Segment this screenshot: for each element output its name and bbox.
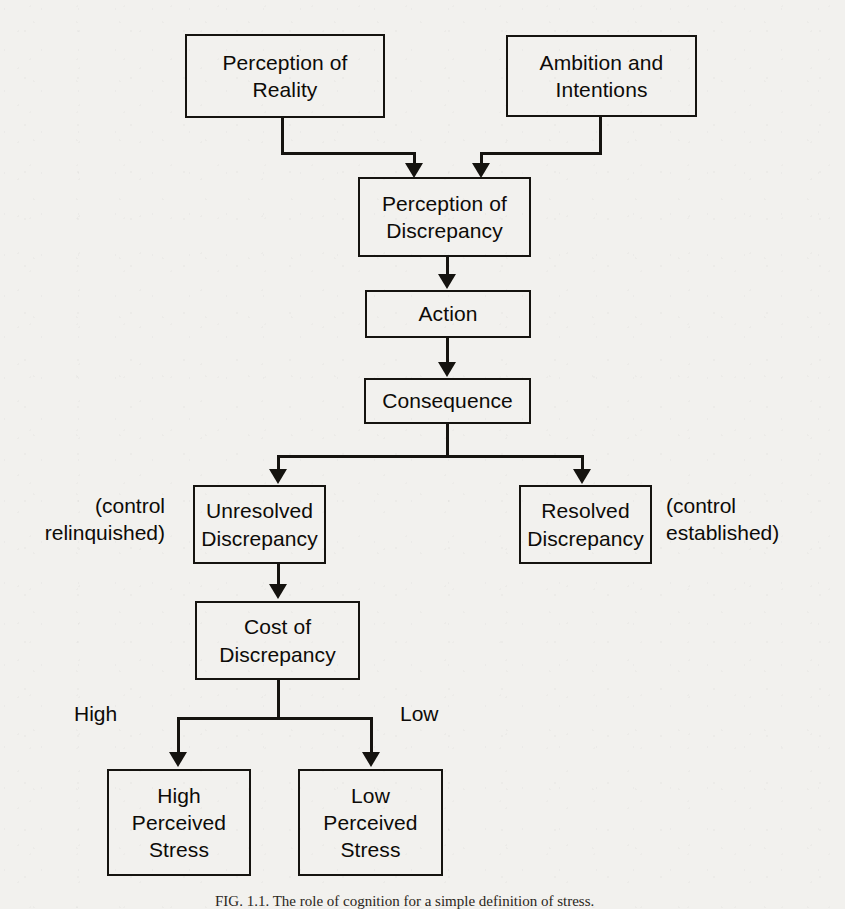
edge-ambition-to-discrepancy-stem	[599, 117, 602, 154]
node-action-label: Action	[413, 300, 484, 327]
edge-split-to-resolved-arrowhead	[573, 469, 591, 484]
node-cost-of-discrepancy: Cost of Discrepancy	[195, 601, 360, 680]
node-unresolved-discrepancy: Unresolved Discrepancy	[193, 485, 326, 564]
edge-unresolved-to-cost-stem	[277, 564, 280, 586]
figure-caption: FIG. 1.1. The role of cognition for a si…	[215, 893, 775, 909]
edge-cost-split-stem	[277, 680, 280, 719]
node-consequence-label: Consequence	[376, 387, 519, 414]
edge-discrepancy-to-action-arrowhead	[438, 274, 456, 289]
edge-action-to-consequence-arrowhead	[438, 362, 456, 377]
node-ambition-and-intentions: Ambition and Intentions	[506, 35, 697, 117]
edge-reality-to-discrepancy-stem	[281, 118, 284, 154]
node-low-perceived-stress: Low Perceived Stress	[298, 769, 443, 876]
edge-unresolved-to-cost-arrowhead	[269, 584, 287, 599]
edge-ambition-to-discrepancy-arrowhead	[472, 163, 490, 178]
edge-reality-to-discrepancy-run	[281, 152, 416, 155]
edge-action-to-consequence-stem	[446, 338, 449, 365]
edge-cost-split-bar	[177, 717, 372, 720]
node-resolved-discrepancy-label: Resolved Discrepancy	[521, 497, 650, 552]
node-high-perceived-stress-label: High Perceived Stress	[126, 782, 232, 864]
edge-consequence-split-bar	[277, 455, 583, 458]
annotation-branch-high: High	[74, 700, 144, 727]
edge-ambition-to-discrepancy-run	[480, 152, 602, 155]
annotation-control-relinquished: (control relinquished)	[0, 492, 165, 547]
edge-split-to-high-stress-arrowhead	[169, 752, 187, 767]
node-resolved-discrepancy: Resolved Discrepancy	[519, 485, 652, 564]
annotation-control-established: (control established)	[666, 492, 845, 547]
node-perception-of-discrepancy-label: Perception of Discrepancy	[376, 190, 513, 245]
edge-split-to-low-stress-arrowhead	[362, 752, 380, 767]
node-action: Action	[365, 290, 531, 338]
node-consequence: Consequence	[364, 378, 531, 424]
node-perception-of-discrepancy: Perception of Discrepancy	[358, 177, 531, 257]
node-ambition-and-intentions-label: Ambition and Intentions	[534, 49, 670, 104]
figure-canvas: Perception of Reality Ambition and Inten…	[0, 0, 845, 909]
node-cost-of-discrepancy-label: Cost of Discrepancy	[213, 613, 342, 668]
edge-split-to-unresolved-arrowhead	[269, 469, 287, 484]
edge-reality-to-discrepancy-arrowhead	[405, 163, 423, 178]
edge-split-to-low-stress-drop	[370, 717, 373, 755]
node-unresolved-discrepancy-label: Unresolved Discrepancy	[195, 497, 324, 552]
annotation-branch-low: Low	[400, 700, 470, 727]
edge-split-to-high-stress-drop	[177, 717, 180, 755]
node-perception-of-reality: Perception of Reality	[185, 34, 385, 118]
edge-consequence-split-stem	[446, 424, 449, 457]
node-low-perceived-stress-label: Low Perceived Stress	[317, 782, 423, 864]
node-high-perceived-stress: High Perceived Stress	[107, 769, 251, 876]
node-perception-of-reality-label: Perception of Reality	[216, 49, 353, 104]
